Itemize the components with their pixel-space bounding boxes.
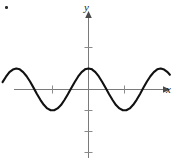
x-axis-label: x xyxy=(166,84,171,95)
y-axis-label: y xyxy=(84,2,89,13)
plot-canvas xyxy=(0,0,177,163)
cosine-graph-figure: y x xyxy=(0,0,177,163)
